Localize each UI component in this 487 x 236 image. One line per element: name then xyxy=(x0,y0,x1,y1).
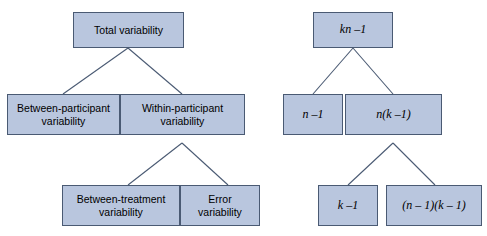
node-label: n(k –1) xyxy=(376,108,410,122)
node-label: (n – 1)(k – 1) xyxy=(402,199,465,213)
node-error-variability: Error variability xyxy=(180,185,260,226)
node-between-participant-variability: Between-participant variability xyxy=(7,94,120,135)
edge-nk-to-n1k1 xyxy=(393,143,435,185)
edge-kn-to-n-minus-1 xyxy=(313,48,353,94)
edge-within-to-error xyxy=(182,143,228,185)
node-within-participant-variability: Within-participant variability xyxy=(120,94,245,135)
node-n-times-k-minus-1: n(k –1) xyxy=(345,94,442,135)
node-n-minus-1: n –1 xyxy=(283,94,343,135)
node-label: k –1 xyxy=(338,199,358,213)
edge-nk-to-k-minus-1 xyxy=(348,143,393,185)
diagram-canvas: Total variability Between-participant va… xyxy=(0,0,487,236)
edge-total-to-within-participant xyxy=(128,48,182,94)
node-between-treatment-variability: Between-treatment variability xyxy=(62,185,180,226)
node-label: Between-participant variability xyxy=(17,102,110,126)
node-label: kn –1 xyxy=(340,23,366,37)
node-k-minus-1: k –1 xyxy=(318,185,378,226)
node-label: Within-participant variability xyxy=(142,102,223,126)
node-kn-minus-1: kn –1 xyxy=(313,12,393,48)
node-label: Total variability xyxy=(94,24,163,36)
node-label: n –1 xyxy=(303,108,324,122)
node-n-minus-1-k-minus-1: (n – 1)(k – 1) xyxy=(386,185,482,226)
node-total-variability: Total variability xyxy=(73,12,184,48)
edge-kn-to-nk-minus-1 xyxy=(353,48,393,94)
node-label: Error variability xyxy=(198,193,242,217)
edge-total-to-between-participant xyxy=(63,48,128,94)
node-label: Between-treatment variability xyxy=(77,193,166,217)
edge-within-to-between-treatment xyxy=(128,143,182,185)
